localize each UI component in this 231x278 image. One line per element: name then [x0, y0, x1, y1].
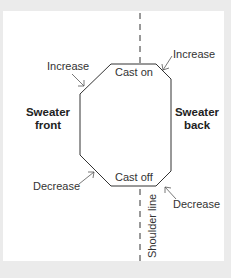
- sweater-back-line1: Sweater: [172, 106, 222, 119]
- arrow-icon: [79, 172, 94, 184]
- sweater-diagram: [0, 0, 231, 278]
- sweater-outline: [80, 64, 171, 186]
- sweater-back-label: Sweater back: [172, 106, 222, 132]
- cast-on-label: Cast on: [115, 66, 153, 78]
- sweater-front-label: Sweater front: [23, 106, 73, 132]
- increase-left-label: Increase: [47, 60, 89, 72]
- shoulder-line-label: Shoulder line: [146, 194, 158, 258]
- arrow-icon: [162, 56, 172, 70]
- sweater-back-line2: back: [172, 119, 222, 132]
- sweater-front-line1: Sweater: [23, 106, 73, 119]
- decrease-right-label: Decrease: [173, 198, 220, 210]
- arrow-icon: [72, 74, 84, 86]
- decrease-left-label: Decrease: [33, 180, 80, 192]
- increase-right-label: Increase: [173, 48, 215, 60]
- cast-off-label: Cast off: [115, 171, 153, 183]
- sweater-front-line2: front: [23, 119, 73, 132]
